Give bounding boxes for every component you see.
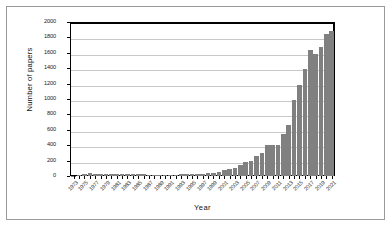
x-axis-tick-mark [294, 176, 295, 179]
bar [254, 156, 259, 176]
y-axis-tick-label: 2000 [28, 19, 56, 25]
x-axis-tick-mark [101, 176, 102, 179]
bar [276, 145, 281, 176]
y-axis-tick-mark [67, 130, 70, 131]
x-axis-tick-mark [176, 176, 177, 179]
bar [324, 34, 329, 176]
x-axis-tick-mark [316, 176, 317, 179]
y-axis-tick-mark [67, 22, 70, 23]
x-axis-title: Year [70, 203, 335, 212]
y-axis-tick-label: 800 [28, 111, 56, 117]
x-axis-tick-mark [262, 176, 263, 179]
bar [292, 100, 297, 176]
x-axis-tick-mark [122, 176, 123, 179]
bar [329, 31, 334, 176]
x-axis-label-slot: 2021 [329, 180, 334, 202]
x-axis-tick-mark [111, 176, 112, 179]
x-axis-tick-mark [208, 176, 209, 179]
x-axis-tick-mark [144, 176, 145, 179]
y-axis-tick-label: 0 [28, 173, 56, 179]
x-axis-tick-mark [240, 176, 241, 179]
x-axis-tick-mark [133, 176, 134, 179]
y-axis-tick-mark [67, 114, 70, 115]
bar [308, 50, 313, 176]
x-axis-tick-mark [251, 176, 252, 179]
y-axis-tick-label: 1000 [28, 96, 56, 102]
x-axis-tick-labels: 1973197519771979198119831985198719891991… [71, 180, 334, 202]
y-axis-tick-mark [67, 84, 70, 85]
bar [249, 161, 254, 176]
y-axis-tick-label: 1800 [28, 34, 56, 40]
y-axis-tick-label: 1600 [28, 50, 56, 56]
bar [281, 134, 286, 176]
bar [319, 47, 324, 176]
figure-container: Number of papers 19731975197719791981198… [0, 0, 392, 228]
y-axis-tick-label: 600 [28, 127, 56, 133]
x-axis-tick-mark [305, 176, 306, 179]
y-axis-tick-mark [67, 53, 70, 54]
y-axis-tick-mark [67, 68, 70, 69]
x-axis-tick-mark [90, 176, 91, 179]
bar [286, 125, 291, 176]
bar [243, 162, 248, 176]
x-axis-tick-mark [273, 176, 274, 179]
y-axis-tick-label: 200 [28, 158, 56, 164]
bar [233, 168, 238, 176]
x-axis-tick-mark [230, 176, 231, 179]
x-axis-tick-marks [71, 176, 334, 179]
y-axis-tick-mark [67, 161, 70, 162]
x-axis-tick-mark [283, 176, 284, 179]
x-axis-tick-mark [154, 176, 155, 179]
bar [303, 69, 308, 176]
y-axis-tick-mark [67, 99, 70, 100]
y-axis-tick-label: 1400 [28, 65, 56, 71]
bar [238, 165, 243, 176]
x-axis-tick-mark [187, 176, 188, 179]
bar [313, 54, 318, 176]
bar [260, 153, 265, 176]
bar [270, 145, 275, 176]
bar-series [71, 22, 334, 176]
x-axis-tick-mark [326, 176, 327, 179]
bar [297, 85, 302, 176]
y-axis-tick-mark [67, 37, 70, 38]
y-axis-tick-label: 400 [28, 142, 56, 148]
y-axis-tick-mark [67, 145, 70, 146]
y-axis-tick-mark [67, 176, 70, 177]
x-axis-tick-mark [219, 176, 220, 179]
y-axis-tick-label: 1200 [28, 81, 56, 87]
bar [265, 145, 270, 176]
x-axis-tick-mark [165, 176, 166, 179]
x-axis-tick-mark [197, 176, 198, 179]
x-axis-tick-mark [79, 176, 80, 179]
